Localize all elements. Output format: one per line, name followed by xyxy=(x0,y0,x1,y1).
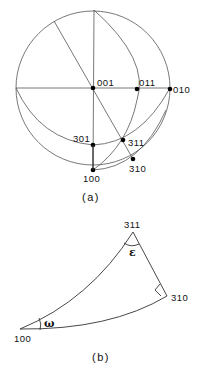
label-010: 010 xyxy=(173,85,190,95)
side-311-310 xyxy=(133,232,167,296)
label-301: 301 xyxy=(73,134,90,144)
label-001: 001 xyxy=(97,78,114,88)
caption-b: (b) xyxy=(92,352,110,363)
label-b-100: 100 xyxy=(14,334,31,344)
label-310: 310 xyxy=(129,164,146,174)
side-100-311 xyxy=(20,232,133,329)
right-angle-marker xyxy=(155,284,161,296)
figure-b-triangle xyxy=(20,232,167,330)
label-311: 311 xyxy=(128,138,145,148)
pole-310 xyxy=(131,157,136,162)
figure-a-poles xyxy=(91,86,173,173)
stereographic-projection-figure xyxy=(0,0,203,368)
label-011: 011 xyxy=(139,78,156,88)
pole-010 xyxy=(168,87,173,92)
caption-a: (a) xyxy=(82,192,100,203)
label-100: 100 xyxy=(83,174,100,184)
label-b-310: 310 xyxy=(171,293,188,303)
angle-epsilon-label: ε xyxy=(129,247,136,258)
side-100-310 xyxy=(20,296,167,329)
pole-001 xyxy=(91,86,96,91)
label-b-311: 311 xyxy=(124,220,141,230)
angle-omega-label: ω xyxy=(44,318,54,329)
pole-311 xyxy=(121,138,126,143)
